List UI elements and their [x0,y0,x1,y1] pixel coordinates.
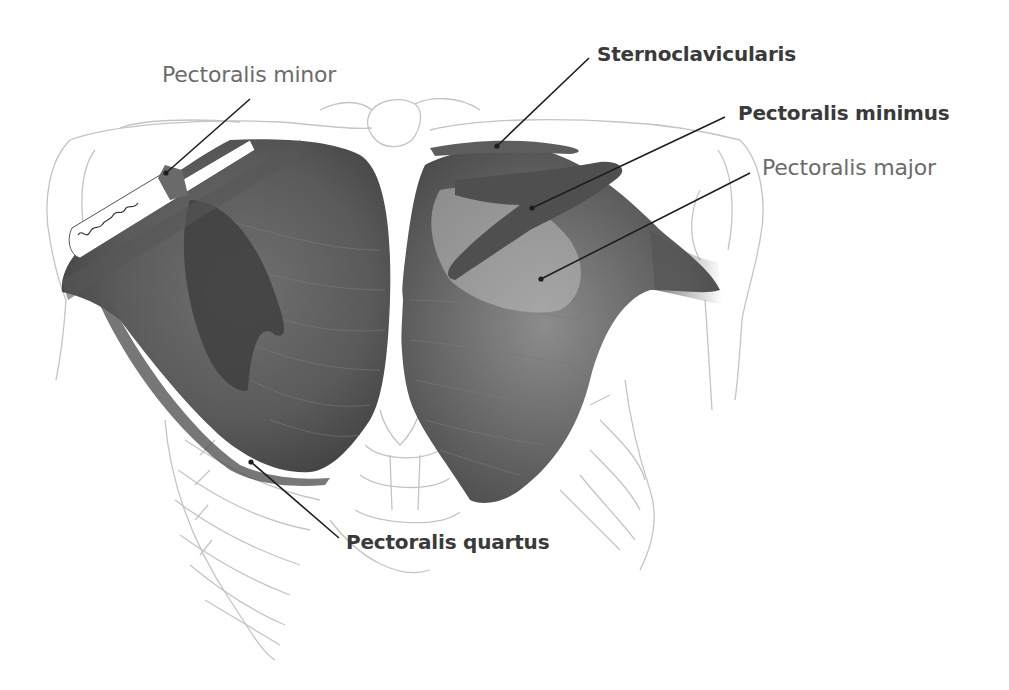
label-pectoralis-minor: Pectoralis minor [162,64,336,86]
label-pectoralis-minimus: Pectoralis minimus [738,103,950,123]
label-pectoralis-major: Pectoralis major [762,157,936,179]
label-pectoralis-quartus: Pectoralis quartus [346,532,549,552]
leader-line-sternoclavicularis [497,58,589,146]
label-sternoclavicularis: Sternoclavicularis [597,44,796,64]
